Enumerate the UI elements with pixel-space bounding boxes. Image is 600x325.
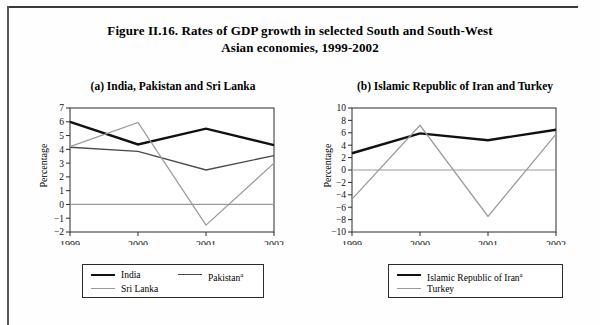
figure-title: Figure II.16. Rates of GDP growth in sel… (40, 22, 560, 56)
panel-b-plot: −10−8−6−4−202468101999200020012002 (322, 100, 572, 245)
svg-text:1999: 1999 (60, 239, 80, 245)
panel-a-title: (a) India, Pakistan and Sri Lanka (58, 80, 288, 92)
legend-swatch-1 (91, 274, 115, 276)
page-edge-top-rule (8, 6, 578, 8)
legend-footnote-marker-2: a (240, 271, 243, 279)
legend-label-3: Sri Lanka (121, 283, 158, 295)
panel-a-plot: −2−1012345671999200020012002 (40, 100, 290, 245)
panel-b-title: (b) Islamic Republic of Iran and Turkey (330, 80, 580, 92)
svg-text:−2: −2 (336, 178, 346, 188)
svg-text:6: 6 (341, 128, 346, 138)
svg-text:0: 0 (341, 165, 346, 175)
legend-swatch-3 (91, 288, 115, 289)
svg-text:−10: −10 (331, 227, 346, 237)
svg-text:10: 10 (337, 103, 347, 113)
svg-text:4: 4 (59, 145, 64, 155)
svg-text:7: 7 (59, 103, 64, 113)
legend-label-1: India (121, 269, 141, 281)
svg-text:0: 0 (59, 200, 64, 210)
svg-text:6: 6 (59, 117, 64, 127)
page-edge-left-rule (7, 6, 9, 325)
svg-text:5: 5 (59, 131, 64, 141)
svg-text:−6: −6 (336, 203, 346, 213)
figure-root: Figure II.16. Rates of GDP growth in sel… (0, 0, 600, 325)
svg-text:2: 2 (59, 172, 64, 182)
svg-text:2000: 2000 (128, 239, 148, 245)
panel-a-legend: IndiaPakistanaSri Lanka (82, 264, 264, 298)
panel-b-legend: Islamic Republic of IranaTurkey (388, 264, 563, 298)
svg-text:1999: 1999 (342, 239, 362, 245)
svg-text:4: 4 (341, 141, 346, 151)
legend-label-1: Islamic Republic of Irana (427, 269, 523, 284)
svg-text:8: 8 (341, 116, 346, 126)
svg-text:2: 2 (341, 153, 346, 163)
legend-label-2: Turkey (427, 283, 454, 295)
figure-title-line-1: Figure II.16. Rates of GDP growth in sel… (107, 23, 492, 38)
svg-text:2002: 2002 (264, 239, 284, 245)
svg-text:2002: 2002 (546, 239, 566, 245)
svg-text:−1: −1 (54, 214, 64, 224)
legend-label-2: Pakistana (208, 269, 243, 284)
legend-swatch-2 (178, 274, 202, 275)
svg-text:−4: −4 (336, 190, 346, 200)
legend-swatch-2 (397, 288, 421, 289)
figure-title-line-2: Asian economies, 1999-2002 (221, 40, 379, 55)
svg-text:2001: 2001 (196, 239, 216, 245)
svg-text:2001: 2001 (478, 239, 498, 245)
svg-text:−8: −8 (336, 215, 346, 225)
legend-swatch-1 (397, 274, 421, 276)
svg-text:1: 1 (59, 186, 64, 196)
svg-text:3: 3 (59, 159, 64, 169)
svg-text:−2: −2 (54, 227, 64, 237)
legend-footnote-marker-1: a (520, 271, 523, 279)
svg-text:2000: 2000 (410, 239, 430, 245)
